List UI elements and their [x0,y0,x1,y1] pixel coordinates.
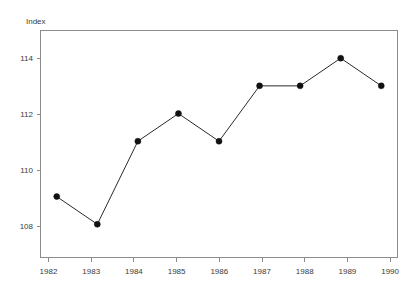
y-tick-label-0: 108 [20,222,34,231]
x-tick-label-3: 1985 [168,267,186,276]
series-markers-index [54,55,385,227]
x-tick-labels: 1982 1983 1984 1985 1986 1987 1988 1989 … [40,267,400,276]
y-tick-label-3: 114 [20,54,33,63]
y-axis-title: Index [26,17,46,26]
x-tick-label-8: 1990 [381,267,399,276]
y-tick-labels: 108 110 112 114 [20,54,34,231]
data-point [257,83,263,89]
x-tick-label-7: 1989 [339,267,357,276]
data-point [378,83,384,89]
x-tick-label-0: 1982 [40,267,58,276]
x-tick-label-2: 1984 [125,267,143,276]
x-tick-label-6: 1988 [296,267,314,276]
data-point [135,138,141,144]
x-tick-label-4: 1986 [210,267,228,276]
x-tick-marks [49,258,391,262]
data-point [54,194,60,200]
data-point [338,55,344,61]
y-tick-label-1: 110 [20,166,33,175]
y-tick-marks [37,59,41,227]
x-tick-label-5: 1987 [253,267,271,276]
data-point [216,138,222,144]
x-tick-label-1: 1983 [82,267,100,276]
data-point [297,83,303,89]
line-chart: Index 108 110 112 114 [0,0,414,289]
y-tick-label-2: 112 [20,110,33,119]
chart-figure: Index 108 110 112 114 [0,0,414,289]
data-point [175,111,181,117]
data-point [94,221,100,227]
